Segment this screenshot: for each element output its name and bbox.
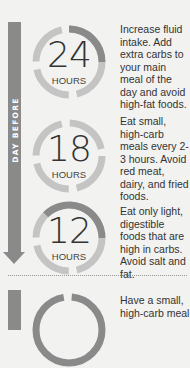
hours-unit: HOURS: [31, 251, 107, 262]
step-description: Increase fluid intake. Add extra carbs t…: [120, 23, 190, 111]
countdown-ring-next: [31, 292, 107, 368]
countdown-ring-24: 24 HOURS: [31, 24, 107, 100]
step-description: Eat only light, digestible foods that ar…: [120, 205, 190, 280]
countdown-ring-12: 12 HOURS: [31, 200, 107, 276]
hours-value: 18: [31, 129, 107, 169]
hours-value: 12: [31, 211, 107, 251]
step-description: Have a small, high-carb meal: [120, 294, 190, 319]
step-description: Eat small, high-carb meals every 2-3 hou…: [120, 115, 190, 203]
hours-value: 24: [31, 35, 107, 75]
timeline-arrowhead: [3, 252, 25, 264]
countdown-ring-18: 18 HOURS: [31, 118, 107, 194]
hours-unit: HOURS: [31, 169, 107, 180]
hours-unit: HOURS: [31, 75, 107, 86]
timeline-bar-next: [8, 290, 21, 330]
clock-ring-icon: [31, 292, 107, 368]
timeline-label: DAY BEFORE: [10, 97, 19, 163]
